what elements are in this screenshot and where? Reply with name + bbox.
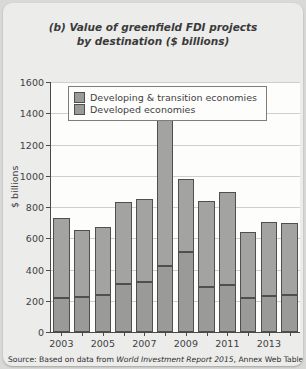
legend-label-developing: Developing & transition economies [90,92,257,103]
y-axis-label: 200 [26,295,44,306]
x-axis-tick [186,332,187,336]
y-axis-label: 800 [26,202,44,213]
source-note: Source: Based on data from World Investm… [8,355,303,364]
x-axis-tick [269,332,270,336]
y-axis-tick [46,332,51,333]
y-axis-label: 1400 [20,108,44,119]
bar-segment-developed [157,266,174,332]
x-axis-tick [61,332,62,336]
y-axis-label: 1000 [20,170,44,181]
source-suffix: , Annex Web Table 19 (UNCTAD, 2015) [234,355,303,364]
chart-title-line-2: by destination ($ billions) [3,34,303,48]
bar-segment-developing [198,201,215,287]
bar-segment-developed [136,282,153,332]
bar-2005 [95,227,112,332]
x-axis-tick [207,332,208,336]
bar-2011 [219,192,236,332]
legend-swatch-developing [74,92,85,103]
bar-2008 [157,120,174,333]
x-axis-tick [82,332,83,336]
bar-segment-developed [261,296,278,332]
y-axis-label: 400 [26,264,44,275]
x-axis-label: 2009 [174,338,198,349]
bar-2013 [261,222,278,332]
bar-segment-developing [219,192,236,285]
x-axis-label: 2011 [215,338,239,349]
bar-2003 [53,218,70,332]
bar-segment-developed [219,285,236,332]
x-axis-label: 2003 [49,338,73,349]
bar-2012 [240,232,257,332]
x-axis-tick [144,332,145,336]
x-axis-label: 2005 [91,338,115,349]
y-axis-label: 1600 [20,77,44,88]
x-axis-tick [165,332,166,336]
bar-segment-developing [74,230,91,297]
bar-segment-developing [115,202,132,284]
bar-segment-developed [95,295,112,332]
bar-segment-developing [261,222,278,296]
chart-title: (b) Value of greenfield FDI projects by … [3,20,303,48]
y-axis-label: 1200 [20,139,44,150]
bar-segment-developing [53,218,70,298]
chart-legend: Developing & transition economies Develo… [68,86,267,121]
chart-title-line-1: (b) Value of greenfield FDI projects [49,21,258,33]
bar-segment-developing [136,199,153,282]
x-axis-tick [290,332,291,336]
bar-2010 [198,201,215,332]
x-axis-tick [248,332,249,336]
x-axis-tick [124,332,125,336]
bar-segment-developed [240,298,257,332]
chart-card: (b) Value of greenfield FDI projects by … [3,3,303,366]
bar-2014 [281,223,298,332]
bar-segment-developed [74,297,91,332]
x-axis-label: 2013 [257,338,281,349]
bar-segment-developing [281,223,298,296]
x-axis-tick [227,332,228,336]
source-citation: World Investment Report 2015 [116,355,233,364]
bar-2009 [178,179,195,332]
bar-segment-developed [178,252,195,332]
bar-2006 [115,202,132,332]
y-axis-label: 600 [26,233,44,244]
bar-segment-developing [178,179,195,252]
x-axis-tick [103,332,104,336]
bar-segment-developed [115,284,132,332]
x-axis-label: 2007 [132,338,156,349]
source-prefix: Source: Based on data from [8,355,116,364]
bar-segment-developing [95,227,112,296]
legend-item-developing: Developing & transition economies [74,92,257,103]
bar-2004 [74,230,91,332]
legend-item-developed: Developed economies [74,104,257,115]
plot-area: 02004006008001000120014001600 2003200520… [50,82,300,333]
bar-segment-developed [281,295,298,332]
bar-2007 [136,199,153,332]
bar-segment-developed [53,298,70,332]
legend-swatch-developed [74,104,85,115]
bar-segment-developed [198,287,215,332]
y-axis-title: $ billions [9,166,20,208]
y-axis-label: 0 [38,327,44,338]
bar-segment-developing [240,232,257,298]
bar-segment-developing [157,120,174,267]
legend-label-developed: Developed economies [90,104,195,115]
